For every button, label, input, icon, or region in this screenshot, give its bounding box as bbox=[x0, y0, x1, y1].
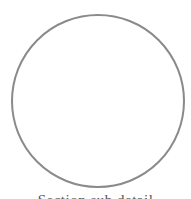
circle-shape bbox=[11, 14, 185, 188]
caption-text: Section sub detail bbox=[0, 191, 191, 199]
